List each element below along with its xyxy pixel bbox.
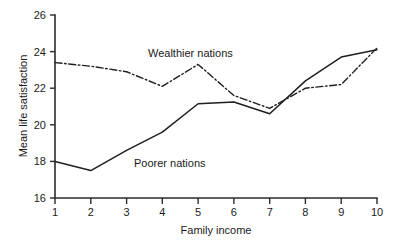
y-tick-label-16: 16 <box>34 192 46 204</box>
x-tick-label-2: 2 <box>88 206 94 218</box>
line-chart: 26 24 22 20 18 16 1 2 3 4 5 6 7 8 9 10 F… <box>0 0 402 245</box>
x-tick-label-5: 5 <box>195 206 201 218</box>
y-axis-title: Mean life satisfaction <box>17 55 29 158</box>
x-tick-label-8: 8 <box>302 206 308 218</box>
x-axis-title: Family income <box>181 224 252 236</box>
x-tick-label-9: 9 <box>338 206 344 218</box>
y-tick-label-20: 20 <box>34 119 46 131</box>
y-tick-label-18: 18 <box>34 155 46 167</box>
x-tick-label-10: 10 <box>371 206 383 218</box>
chart-canvas: 26 24 22 20 18 16 1 2 3 4 5 6 7 8 9 10 F… <box>0 0 402 245</box>
x-tick-label-1: 1 <box>52 206 58 218</box>
y-tick-label-24: 24 <box>34 46 46 58</box>
y-tick-label-22: 22 <box>34 82 46 94</box>
x-tick-label-3: 3 <box>124 206 130 218</box>
annotation-poorer-nations: Poorer nations <box>134 157 206 169</box>
x-tick-label-7: 7 <box>267 206 273 218</box>
x-tick-label-4: 4 <box>159 206 165 218</box>
y-tick-label-26: 26 <box>34 9 46 21</box>
x-tick-label-6: 6 <box>231 206 237 218</box>
annotation-wealthier-nations: Wealthier nations <box>148 47 233 59</box>
